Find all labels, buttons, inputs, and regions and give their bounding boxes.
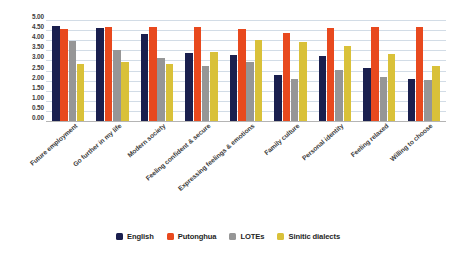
bar: [166, 64, 174, 121]
y-axis-tick-label: 5.00: [14, 14, 44, 20]
bar: [246, 62, 254, 121]
bar: [121, 62, 129, 121]
x-axis-label: Expressing feelings & emotions: [177, 122, 256, 192]
bar: [283, 33, 291, 121]
bar: [69, 41, 77, 121]
legend-label: LOTEs: [240, 232, 264, 241]
bar: [344, 46, 352, 121]
y-axis-tick-label: 1.50: [14, 85, 44, 91]
bar-chart: 5.004.504.003.503.002.502.001.501.000.50…: [0, 0, 456, 265]
bar-groups: [46, 20, 446, 121]
x-axis-label: Modern society: [126, 122, 167, 159]
bar: [60, 29, 68, 121]
bar: [319, 56, 327, 121]
y-axis-tick-label: 3.50: [14, 44, 44, 50]
bar: [149, 27, 157, 121]
bar: [388, 54, 396, 121]
bar: [157, 58, 165, 121]
legend-swatch-icon: [116, 233, 123, 240]
bar: [113, 50, 121, 121]
bar: [105, 27, 113, 121]
x-axis-label: Go further in my life: [72, 122, 123, 168]
y-axis-tick-label: 2.50: [14, 65, 44, 71]
bar-group: [402, 20, 446, 121]
bar: [363, 68, 371, 121]
legend-label: Putonghua: [178, 232, 217, 241]
bar: [299, 42, 307, 121]
legend-swatch-icon: [229, 233, 236, 240]
bar-group: [179, 20, 223, 121]
y-axis-tick-label: 0.00: [14, 115, 44, 121]
bar: [210, 52, 218, 121]
bar: [291, 79, 299, 121]
bar: [96, 28, 104, 121]
x-axis-label: Willing to choose: [389, 122, 434, 162]
x-axis-label: Feeling relaxed: [349, 122, 389, 158]
y-axis-tick-label: 3.00: [14, 54, 44, 60]
y-axis-tick-label: 1.00: [14, 95, 44, 101]
bar: [380, 77, 388, 121]
bar-group: [357, 20, 401, 121]
bar-group: [90, 20, 134, 121]
bar: [371, 27, 379, 121]
plot-area: 5.004.504.003.503.002.502.001.501.000.50…: [0, 0, 456, 130]
legend-label: English: [127, 232, 154, 241]
legend-label: Sinitic dialects: [288, 232, 340, 241]
bar: [327, 28, 335, 121]
y-axis-tick-label: 2.00: [14, 75, 44, 81]
bar: [274, 75, 282, 121]
legend-item[interactable]: Sinitic dialects: [277, 232, 340, 241]
bar: [230, 55, 238, 121]
legend-swatch-icon: [167, 233, 174, 240]
bar-group: [268, 20, 312, 121]
x-axis-category-labels: Future employmentGo further in my lifeMo…: [46, 122, 446, 184]
legend-swatch-icon: [277, 233, 284, 240]
bar: [52, 26, 60, 121]
bar: [255, 40, 263, 121]
bar: [141, 34, 149, 121]
legend-item[interactable]: LOTEs: [229, 232, 264, 241]
x-axis-label: Personal identity: [301, 122, 345, 162]
bar: [424, 80, 432, 121]
bar: [432, 66, 440, 121]
bar-group: [313, 20, 357, 121]
bar-group: [224, 20, 268, 121]
y-axis-tick-label: 0.50: [14, 105, 44, 111]
bar: [416, 27, 424, 121]
bar: [202, 66, 210, 121]
bar: [185, 53, 193, 121]
bar: [238, 29, 246, 121]
bar: [408, 79, 416, 121]
bar: [194, 27, 202, 121]
bar-group: [135, 20, 179, 121]
y-axis-tick-label: 4.00: [14, 34, 44, 40]
x-axis-label: Family culture: [263, 122, 301, 156]
bar: [77, 64, 85, 121]
y-axis: 5.004.504.003.503.002.502.001.501.000.50…: [14, 17, 44, 121]
bar-group: [46, 20, 90, 121]
bar: [335, 70, 343, 122]
chart-legend: EnglishPutonghuaLOTEsSinitic dialects: [0, 232, 456, 241]
legend-item[interactable]: Putonghua: [167, 232, 217, 241]
y-axis-tick-label: 4.50: [14, 24, 44, 30]
legend-item[interactable]: English: [116, 232, 154, 241]
